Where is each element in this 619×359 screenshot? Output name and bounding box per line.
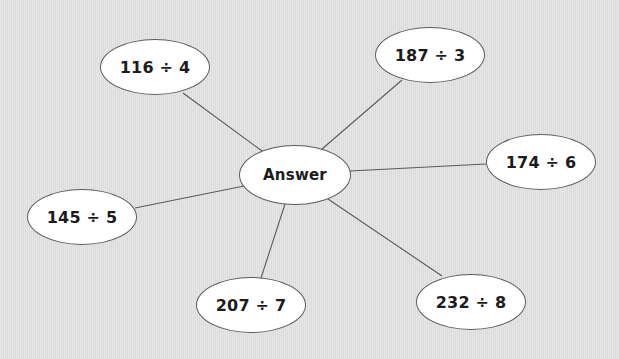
connector-187-div-3 — [322, 80, 402, 149]
expression-174-div-6: 174 ÷ 6 — [506, 153, 576, 172]
expression-232-div-8: 232 ÷ 8 — [436, 293, 506, 312]
bubble-207-div-7: 207 ÷ 7 — [196, 277, 306, 333]
bubble-116-div-4: 116 ÷ 4 — [100, 39, 210, 95]
connector-145-div-5 — [135, 186, 244, 208]
bubble-145-div-5: 145 ÷ 5 — [27, 189, 137, 245]
spider-diagram: Answer 116 ÷ 4 187 ÷ 3 174 ÷ 6 145 ÷ 5 2… — [0, 0, 619, 359]
connector-232-div-8 — [328, 199, 442, 276]
expression-145-div-5: 145 ÷ 5 — [47, 208, 117, 227]
connector-116-div-4 — [183, 93, 262, 151]
bubble-187-div-3: 187 ÷ 3 — [375, 27, 485, 83]
bubble-174-div-6: 174 ÷ 6 — [486, 134, 596, 190]
bubble-232-div-8: 232 ÷ 8 — [416, 274, 526, 330]
expression-116-div-4: 116 ÷ 4 — [120, 58, 190, 77]
connector-174-div-6 — [350, 164, 486, 171]
answer-bubble: Answer — [239, 145, 351, 205]
expression-207-div-7: 207 ÷ 7 — [216, 296, 286, 315]
expression-187-div-3: 187 ÷ 3 — [395, 46, 465, 65]
connector-207-div-7 — [261, 204, 285, 278]
answer-label: Answer — [263, 166, 327, 184]
